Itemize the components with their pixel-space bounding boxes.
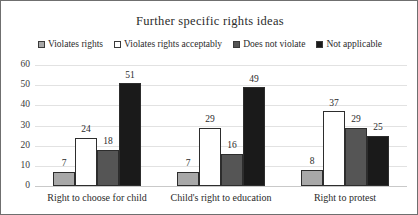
bar-value-label: 8 [310,157,315,167]
bar-slot: 51 [119,65,141,186]
y-axis-tick-label: 50 [21,80,31,90]
bar-group-bars: 7241851 [35,65,159,186]
bar-value-label: 7 [186,159,191,169]
bar-slot: 16 [221,65,243,186]
legend-swatch-icon [233,41,240,48]
bar[interactable] [199,128,221,186]
bar-slot: 7 [177,65,199,186]
bar-group-bars: 8372925 [283,65,407,186]
gridline: 0 [35,186,407,187]
y-axis-tick-label: 30 [21,121,31,131]
bar-slot: 29 [345,65,367,186]
bar-group: 8372925Right to protest [283,65,407,186]
chart-figure: Further specific rights ideas Violates r… [0,0,418,215]
bar-group: 7241851Right to choose for child [35,65,159,186]
x-axis-category-label: Right to choose for child [47,192,146,203]
bar[interactable] [53,172,75,186]
legend-label: Not applicable [326,40,382,50]
chart-legend: Violates rightsViolates rights acceptabl… [1,40,418,50]
bar[interactable] [243,87,265,186]
bar-value-label: 16 [227,141,237,151]
bar-slot: 8 [301,65,323,186]
y-axis-tick-label: 10 [21,161,31,171]
bar[interactable] [301,170,323,186]
bar-slot: 7 [53,65,75,186]
legend-item[interactable]: Violates rights [38,40,103,50]
legend-item[interactable]: Does not violate [233,40,305,50]
legend-swatch-icon [38,41,45,48]
bar-value-label: 25 [373,123,383,133]
chart-title: Further specific rights ideas [1,14,418,29]
bar-value-label: 51 [125,71,135,81]
bar-group: 7291649Child's right to education [159,65,283,186]
bar[interactable] [323,111,345,186]
legend-label: Violates rights [48,40,103,50]
legend-item[interactable]: Not applicable [316,40,382,50]
bar-group-bars: 7291649 [159,65,283,186]
bar[interactable] [221,154,243,186]
legend-swatch-icon [114,41,121,48]
bar-value-label: 29 [351,115,361,125]
x-axis-category-label: Child's right to education [171,192,272,203]
x-axis-category-label: Right to protest [314,192,376,203]
bar[interactable] [97,150,119,186]
bar[interactable] [345,128,367,186]
legend-swatch-icon [316,41,323,48]
bar-value-label: 18 [103,137,113,147]
y-axis-tick-label: 20 [21,141,31,151]
bar-slot: 25 [367,65,389,186]
bar-value-label: 29 [205,115,215,125]
bar-slot: 24 [75,65,97,186]
y-axis-tick-label: 60 [21,60,31,70]
y-axis-tick-label: 0 [25,181,30,191]
bar-slot: 49 [243,65,265,186]
bar-value-label: 24 [81,125,91,135]
bar-slot: 37 [323,65,345,186]
bar-value-label: 49 [249,75,259,85]
bar-slot: 29 [199,65,221,186]
bar-value-label: 37 [329,99,339,109]
bar-slot: 18 [97,65,119,186]
bar[interactable] [75,138,97,186]
bar[interactable] [119,83,141,186]
plot-area: 01020304050607241851Right to choose for … [35,65,407,186]
legend-label: Does not violate [243,40,305,50]
legend-item[interactable]: Violates rights acceptably [114,40,222,50]
y-axis-tick-label: 40 [21,101,31,111]
bar-value-label: 7 [62,159,67,169]
bar[interactable] [367,136,389,186]
legend-label: Violates rights acceptably [124,40,222,50]
bar[interactable] [177,172,199,186]
